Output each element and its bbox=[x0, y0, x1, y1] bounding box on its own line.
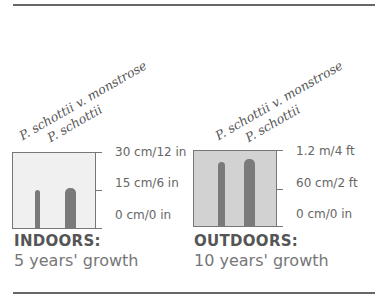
top-rule bbox=[13, 4, 375, 6]
outdoor-axis-label-bottom: 0 cm/0 in bbox=[296, 207, 352, 221]
indoor-axis-label-top: 30 cm/12 in bbox=[115, 145, 186, 159]
outdoor-plant-schottii bbox=[244, 159, 255, 226]
outdoor-plant-monstrose bbox=[218, 162, 225, 226]
indoor-axis-label-mid: 15 cm/6 in bbox=[115, 176, 179, 190]
indoor-plant-schottii bbox=[65, 188, 76, 228]
indoor-label-monstrose: P. schottii v. monstrose bbox=[17, 58, 150, 143]
outdoor-axis-label-top: 1.2 m/4 ft bbox=[296, 144, 355, 158]
outdoor-tick-bottom bbox=[276, 226, 283, 227]
bottom-rule bbox=[13, 292, 375, 294]
indoor-tick-bottom bbox=[95, 228, 102, 229]
outdoor-axis-label-mid: 60 cm/2 ft bbox=[296, 176, 358, 190]
outdoor-subheading: 10 years' growth bbox=[194, 251, 329, 270]
indoor-axis-label-bottom: 0 cm/0 in bbox=[115, 208, 171, 222]
outdoor-label-monstrose: P. schottii v. monstrose bbox=[213, 58, 346, 143]
indoor-growth-box bbox=[12, 152, 96, 229]
indoor-heading: INDOORS: bbox=[14, 232, 101, 250]
outdoor-tick-top bbox=[276, 150, 283, 151]
indoor-tick-mid bbox=[95, 190, 102, 191]
outdoor-heading: OUTDOORS: bbox=[194, 232, 298, 250]
indoor-tick-top bbox=[95, 152, 102, 153]
indoor-plant-monstrose bbox=[35, 190, 40, 228]
outdoor-tick-mid bbox=[276, 189, 283, 190]
indoor-subheading: 5 years' growth bbox=[14, 251, 138, 270]
outdoor-growth-box bbox=[193, 150, 277, 227]
